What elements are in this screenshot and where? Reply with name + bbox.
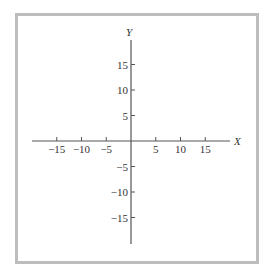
x-ticks: −15−10−551015 bbox=[48, 137, 211, 155]
y-tick-label: 15 bbox=[117, 59, 129, 71]
y-tick-label: 10 bbox=[117, 84, 129, 96]
y-tick-label: −15 bbox=[111, 212, 129, 224]
x-tick-label: −5 bbox=[100, 143, 112, 155]
y-tick-label: −5 bbox=[116, 161, 128, 173]
y-tick-label: −10 bbox=[111, 186, 129, 198]
x-tick-label: 10 bbox=[175, 143, 187, 155]
x-tick-label: −15 bbox=[48, 143, 66, 155]
x-tick-label: 15 bbox=[200, 143, 212, 155]
y-tick-label: 5 bbox=[123, 110, 129, 122]
y-axis-label: Y bbox=[126, 26, 134, 38]
x-tick-label: −10 bbox=[73, 143, 91, 155]
coordinate-plane: X Y −15−10−551015 15105−5−10−15 bbox=[0, 0, 268, 271]
x-tick-label: 5 bbox=[153, 143, 159, 155]
x-axis-label: X bbox=[233, 135, 242, 147]
